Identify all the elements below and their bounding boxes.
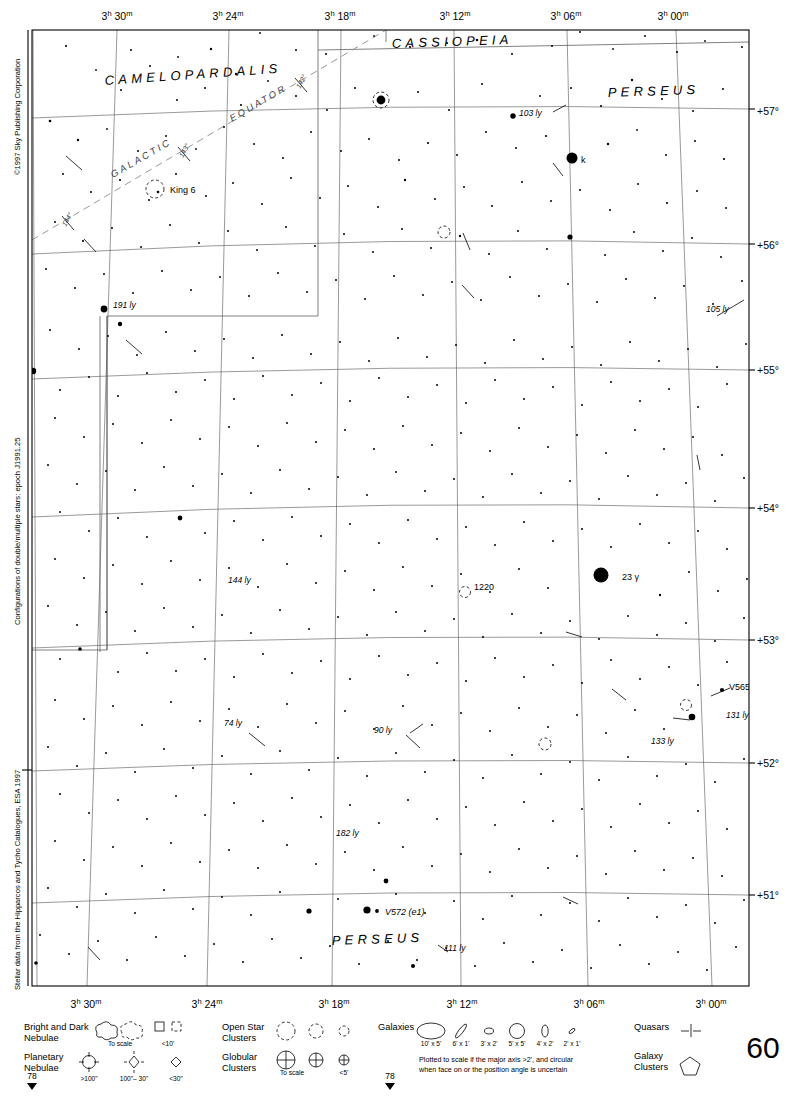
star-point — [571, 346, 573, 348]
star-point — [721, 454, 723, 456]
page-number: 60 — [746, 1031, 779, 1064]
distance-label-191ly: 191 ly — [113, 300, 136, 310]
star-point — [550, 200, 552, 202]
star-point — [579, 189, 581, 191]
star-point — [677, 951, 679, 953]
globular-cluster-icon-large — [277, 1051, 295, 1069]
star-point — [459, 235, 461, 237]
star-point — [337, 476, 339, 478]
star-point — [552, 664, 554, 666]
star-point — [431, 865, 433, 867]
star-point — [83, 577, 85, 579]
star-point — [136, 354, 138, 356]
star-point — [134, 630, 136, 632]
star-point — [629, 341, 631, 343]
star-point — [78, 348, 80, 350]
star-point — [262, 539, 264, 541]
star-point — [170, 560, 172, 562]
star-point — [398, 159, 400, 161]
legend-galaxy-size-2: 3' x 2' — [481, 1040, 498, 1047]
star-point — [165, 331, 167, 333]
star-point — [219, 276, 221, 278]
star-point — [663, 728, 665, 730]
star-point — [694, 140, 696, 142]
star-point — [253, 143, 255, 145]
star-point — [619, 944, 621, 946]
star-point — [378, 655, 380, 657]
star-point — [511, 613, 513, 615]
star-point — [604, 254, 606, 256]
star-point — [431, 444, 433, 446]
star-point — [132, 292, 134, 294]
star-point — [743, 758, 745, 760]
star-point — [314, 245, 316, 247]
star-point — [489, 730, 491, 732]
star-point — [190, 289, 192, 291]
star-point — [221, 473, 223, 475]
star-point — [726, 661, 728, 663]
star-point — [242, 961, 244, 963]
star-point — [407, 799, 409, 801]
star-point — [551, 45, 553, 47]
page-reference-number-left: 78 — [27, 1071, 37, 1081]
star-point — [285, 226, 287, 228]
star-point — [107, 335, 109, 337]
star-point — [277, 272, 279, 274]
star-point — [743, 899, 745, 901]
star-point — [83, 436, 85, 438]
star-point — [378, 822, 380, 824]
star-point — [523, 801, 525, 803]
star-point — [451, 281, 453, 283]
star-point — [363, 906, 370, 913]
star-point — [291, 797, 293, 799]
star-point — [552, 820, 554, 822]
legend-galaxy-clusters-line2: Clusters — [634, 1062, 668, 1072]
configurations-text: Configurations of double/multiple stars:… — [13, 438, 22, 625]
star-point — [523, 676, 525, 678]
star-point — [598, 638, 600, 640]
star-point — [358, 963, 360, 965]
star-label-v565: V565 — [729, 682, 750, 692]
star-point — [612, 48, 614, 50]
star-point — [117, 671, 119, 673]
star-point — [436, 538, 438, 540]
star-point — [349, 523, 351, 525]
star-point — [34, 961, 38, 965]
star-point — [658, 360, 660, 362]
star-point — [697, 684, 699, 686]
star-point — [78, 647, 82, 651]
star-point — [656, 494, 658, 496]
star-point — [373, 869, 375, 871]
star-point — [233, 520, 235, 522]
star-point — [465, 526, 467, 528]
star-point — [581, 404, 583, 406]
star-point — [746, 578, 748, 580]
star-point — [221, 896, 223, 898]
deepsky-label-1220: 1220 — [474, 582, 494, 592]
star-point — [685, 482, 687, 484]
star-point — [95, 69, 97, 71]
star-point — [407, 519, 409, 521]
star-point — [397, 337, 399, 339]
star-point — [141, 583, 143, 585]
star-point — [561, 949, 563, 951]
star-point — [105, 893, 107, 895]
star-point — [344, 710, 346, 712]
star-point — [547, 867, 549, 869]
star-point — [163, 607, 165, 609]
legend-bright-dark-nebulae-line1: Bright and Dark — [24, 1022, 89, 1032]
star-point — [436, 662, 438, 664]
star-point — [547, 726, 549, 728]
star-point — [228, 567, 230, 569]
star-point — [648, 963, 650, 965]
star-point — [257, 726, 259, 728]
star-point — [511, 53, 513, 55]
star-point — [170, 701, 172, 703]
star-point — [523, 398, 525, 400]
star-point — [198, 242, 200, 244]
star-point — [169, 224, 171, 226]
star-point — [233, 398, 235, 400]
star-point — [368, 360, 370, 362]
star-point — [567, 153, 578, 164]
star-point — [279, 469, 281, 471]
